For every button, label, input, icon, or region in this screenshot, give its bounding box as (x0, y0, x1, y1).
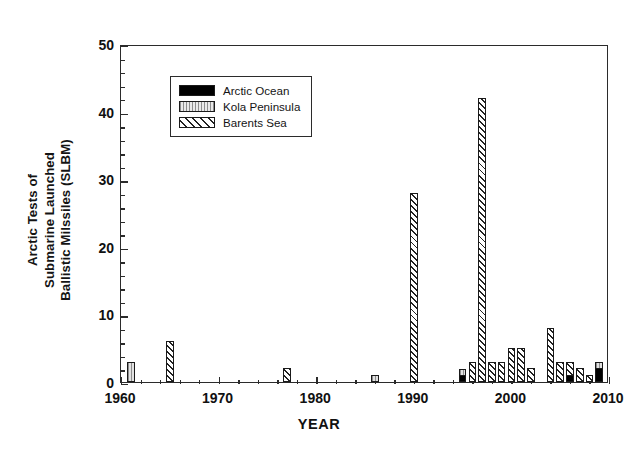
legend-swatch-diagonal-hatch (179, 117, 215, 128)
y-axis-title: Arctic Tests of Submarine Launched Balli… (20, 55, 80, 385)
y-tick-label: 10 (80, 308, 114, 322)
x-major-tick (609, 377, 610, 384)
x-tick-label: 2010 (578, 390, 638, 406)
bar-stack (498, 362, 506, 382)
bar-segment-barents-sea (498, 362, 506, 382)
bar-segment-barents-sea (566, 362, 574, 376)
bar-stack (469, 362, 477, 382)
y-major-tick (121, 384, 128, 385)
bar-stack (283, 368, 291, 382)
bar-stack (371, 375, 379, 382)
bar-segment-barents-sea (508, 348, 516, 382)
bar-stack (586, 375, 594, 382)
bar-segment-kola-peninsula (459, 369, 467, 376)
bar-stack (478, 98, 486, 382)
bar-stack (127, 362, 135, 382)
bar-segment-barents-sea (547, 328, 555, 382)
legend-label: Arctic Ocean (223, 84, 289, 97)
bar-segment-arctic-ocean (566, 375, 574, 382)
bar-segment-barents-sea (586, 375, 594, 382)
chart-legend: Arctic OceanKola PeninsulaBarents Sea (170, 76, 312, 137)
bar-stack (459, 368, 467, 382)
legend-label: Barents Sea (223, 116, 287, 129)
y-axis-tick-labels: 01020304050 (76, 0, 114, 451)
bar-segment-barents-sea (166, 341, 174, 382)
bar-stack (556, 362, 564, 382)
y-axis-title-line-2: Submarine Launched (42, 152, 59, 288)
bar-stack (566, 362, 574, 382)
bar-segment-kola-peninsula (127, 362, 135, 382)
bar-segment-barents-sea (283, 368, 291, 382)
legend-item: Arctic Ocean (179, 83, 303, 98)
bar-segment-kola-peninsula (595, 362, 603, 369)
legend-item: Kola Peninsula (179, 99, 303, 114)
x-tick-label: 1970 (188, 390, 248, 406)
bar-segment-barents-sea (410, 193, 418, 382)
bar-segment-barents-sea (469, 362, 477, 382)
bar-segment-barents-sea (488, 362, 496, 382)
bar-segment-arctic-ocean (459, 375, 467, 382)
legend-swatch-vertical-lines (179, 101, 215, 112)
bar-stack (527, 368, 535, 382)
y-axis-title-line-1: Arctic Tests of (25, 174, 42, 266)
y-axis-title-line-3: Ballistic Milssiles (SLBM) (58, 139, 75, 301)
bar-stack (517, 348, 525, 382)
bar-stack (410, 193, 418, 382)
bar-segment-kola-peninsula (371, 375, 379, 382)
x-axis-title: YEAR (0, 416, 638, 432)
bar-stack (547, 328, 555, 382)
bar-segment-arctic-ocean (595, 368, 603, 382)
x-tick-label: 1990 (383, 390, 443, 406)
chart-figure: Arctic Tests of Submarine Launched Balli… (0, 0, 638, 451)
x-tick-label: 2000 (480, 390, 540, 406)
y-tick-label: 20 (80, 241, 114, 255)
bar-segment-barents-sea (517, 348, 525, 382)
bar-segment-barents-sea (556, 362, 564, 382)
bar-stack (576, 368, 584, 382)
x-tick-label: 1980 (285, 390, 345, 406)
bar-stack (488, 362, 496, 382)
y-tick-label: 30 (80, 173, 114, 187)
bar-segment-barents-sea (576, 368, 584, 382)
legend-label: Kola Peninsula (223, 100, 300, 113)
x-tick-label: 1960 (90, 390, 150, 406)
bar-segment-barents-sea (478, 98, 486, 382)
legend-swatch-solid-black (179, 85, 215, 96)
bar-stack (166, 341, 174, 382)
y-tick-label: 40 (80, 106, 114, 120)
y-tick-label: 0 (80, 376, 114, 390)
bar-stack (595, 362, 603, 382)
bar-stack (508, 348, 516, 382)
legend-item: Barents Sea (179, 115, 303, 130)
bar-segment-barents-sea (527, 368, 535, 382)
y-tick-label: 50 (80, 38, 114, 52)
